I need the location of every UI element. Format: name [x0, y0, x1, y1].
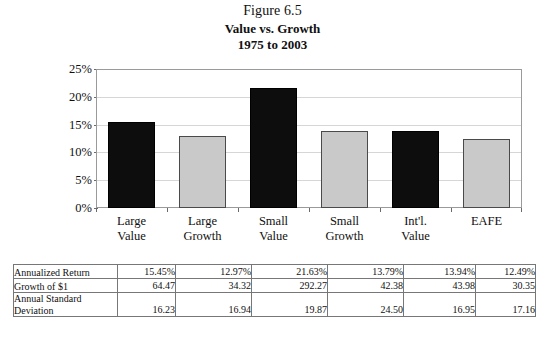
x-axis-category-label: Large Value — [96, 214, 167, 243]
y-axis-tick-label: 10% — [69, 146, 92, 158]
table-cell: 21.63% — [252, 265, 328, 279]
data-table: Annualized Return15.45%12.97%21.63%13.79… — [13, 264, 536, 317]
table-cell: 17.16 — [476, 293, 536, 317]
bar-chart: 0%5%10%15%20%25% Large ValueLarge Growth… — [0, 0, 545, 260]
x-axis-tick-mark — [96, 208, 97, 212]
x-axis-category-label: Small Growth — [309, 214, 380, 243]
table-cell: 16.95 — [404, 293, 476, 317]
x-axis-labels: Large ValueLarge GrowthSmall ValueSmall … — [96, 214, 522, 254]
y-axis-tick-label: 25% — [69, 63, 92, 75]
bar — [250, 88, 297, 208]
table-cell: 16.94 — [176, 293, 252, 317]
x-axis-tick-mark — [451, 208, 452, 212]
x-axis-tick-mark — [380, 208, 381, 212]
table-row-label: Growth of $1 — [14, 279, 118, 293]
x-axis-ticks — [96, 208, 522, 213]
x-axis-category-label: EAFE — [451, 214, 522, 229]
bar — [321, 131, 368, 208]
y-axis-tick-label: 20% — [69, 91, 92, 103]
x-axis-tick-mark — [309, 208, 310, 212]
y-axis: 0%5%10%15%20%25% — [52, 69, 94, 208]
y-axis-tick-label: 5% — [75, 174, 92, 186]
table-cell: 16.23 — [118, 293, 176, 317]
x-axis-tick-mark — [521, 208, 522, 212]
x-axis-category-label: Large Growth — [167, 214, 238, 243]
table-cell: 30.35 — [476, 279, 536, 293]
table-cell: 13.79% — [328, 265, 404, 279]
bar — [463, 139, 510, 208]
table-cell: 64.47 — [118, 279, 176, 293]
y-axis-tick-label: 0% — [75, 202, 92, 214]
x-axis-category-label: Small Value — [238, 214, 309, 243]
table-cell: 42.38 — [328, 279, 404, 293]
table-cell: 12.49% — [476, 265, 536, 279]
x-axis-tick-mark — [167, 208, 168, 212]
x-axis-tick-mark — [238, 208, 239, 212]
table-row: Annual Standard Deviation16.2316.9419.87… — [14, 293, 536, 317]
table-row: Growth of $164.4734.32292.2742.3843.9830… — [14, 279, 536, 293]
data-table-container: Annualized Return15.45%12.97%21.63%13.79… — [13, 264, 535, 317]
table-row: Annualized Return15.45%12.97%21.63%13.79… — [14, 265, 536, 279]
table-cell: 292.27 — [252, 279, 328, 293]
y-axis-tick-label: 15% — [69, 119, 92, 131]
table-cell: 43.98 — [404, 279, 476, 293]
bar — [392, 131, 439, 209]
x-axis-category-label: Int'l. Value — [380, 214, 451, 243]
table-cell: 24.50 — [328, 293, 404, 317]
bar — [108, 122, 155, 208]
table-cell: 12.97% — [176, 265, 252, 279]
bars-container — [96, 69, 522, 208]
table-cell: 19.87 — [252, 293, 328, 317]
table-cell: 13.94% — [404, 265, 476, 279]
bar — [179, 136, 226, 208]
table-row-label: Annual Standard Deviation — [14, 293, 118, 317]
table-row-label: Annualized Return — [14, 265, 118, 279]
table-cell: 15.45% — [118, 265, 176, 279]
table-cell: 34.32 — [176, 279, 252, 293]
